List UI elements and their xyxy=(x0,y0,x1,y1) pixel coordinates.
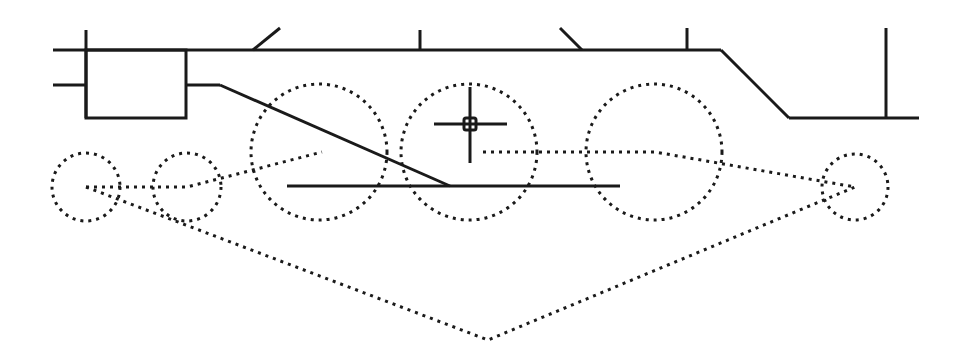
cylinder-box xyxy=(86,50,186,118)
crosshair-cursor-icon xyxy=(434,87,507,163)
cab-slope-line xyxy=(721,50,789,118)
locomotive-frame xyxy=(53,28,919,186)
rear-small-wheel[interactable] xyxy=(822,154,888,220)
rear-link[interactable] xyxy=(483,152,855,187)
driver-wheel-1[interactable] xyxy=(251,84,387,220)
front-small-wheel-2[interactable] xyxy=(153,153,221,221)
drawing-canvas[interactable] xyxy=(0,0,954,362)
slant-stub-2 xyxy=(560,28,582,50)
linkage-group xyxy=(86,152,855,340)
slant-stub-1 xyxy=(253,28,280,50)
lower-span-link[interactable] xyxy=(86,187,855,340)
